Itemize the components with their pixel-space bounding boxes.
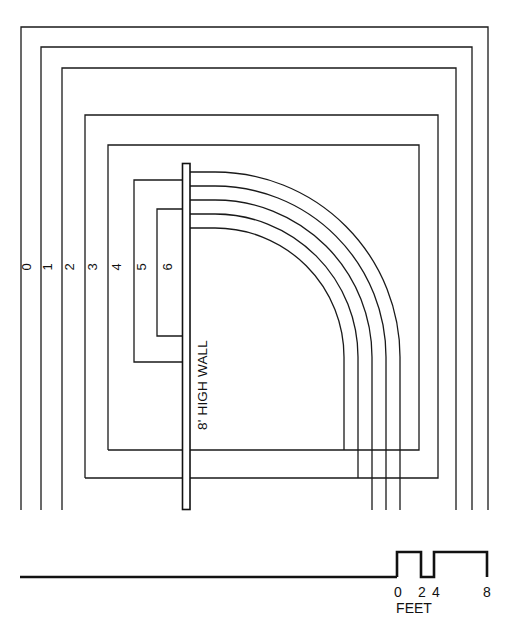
scale-tick-4: 4 <box>432 584 440 600</box>
contour-label-1: 1 <box>40 263 55 270</box>
noise-contour-figure: 0 1 2 3 4 5 6 8' HIGH WALL 0 2 4 8 FEET <box>0 0 510 636</box>
contour-label-3: 3 <box>85 263 100 270</box>
scale-steps <box>397 552 487 577</box>
contour-label-2: 2 <box>62 263 77 270</box>
contour-label-6: 6 <box>160 263 175 270</box>
wall-bar <box>183 164 191 510</box>
contour-label-0: 0 <box>19 263 34 270</box>
contour-path-2 <box>62 68 456 510</box>
scale-tick-2: 2 <box>418 584 426 600</box>
wall-label: 8' HIGH WALL <box>195 340 210 430</box>
contour-label-5: 5 <box>134 263 149 270</box>
contour-path-1 <box>41 47 472 510</box>
plan-drawing: 0 1 2 3 4 5 6 8' HIGH WALL 0 2 4 8 FEET <box>0 0 510 636</box>
contour-arc-0 <box>190 172 400 510</box>
contour-label-4: 4 <box>109 263 124 270</box>
contour-path-3 <box>85 115 438 478</box>
scale-tick-0: 0 <box>394 584 402 600</box>
scale-tick-labels: 0 2 4 8 <box>394 584 491 600</box>
contour-labels-group: 0 1 2 3 4 5 6 <box>19 263 175 270</box>
contour-path-6 <box>157 209 186 336</box>
scale-caption: FEET <box>396 600 432 616</box>
scale-tick-8: 8 <box>483 584 491 600</box>
